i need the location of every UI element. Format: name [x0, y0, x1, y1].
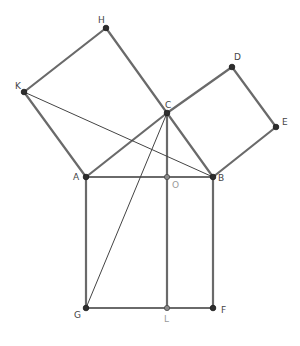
- segment-hc: [106, 28, 167, 113]
- point-h[interactable]: [103, 25, 109, 31]
- label-h: H: [98, 15, 105, 25]
- segment-kb: [24, 92, 213, 177]
- segment-ac: [86, 113, 167, 177]
- label-f: F: [221, 305, 226, 315]
- segment-cg: [86, 113, 167, 308]
- segment-cd: [167, 67, 232, 113]
- label-g: G: [74, 310, 81, 320]
- label-o: O: [172, 180, 179, 190]
- segment-ak: [24, 92, 86, 177]
- point-c[interactable]: [164, 110, 170, 116]
- point-l[interactable]: [164, 305, 169, 310]
- label-k: K: [15, 81, 22, 91]
- label-l: L: [164, 314, 169, 324]
- point-f[interactable]: [210, 305, 216, 311]
- geometry-canvas: ABCDEHKGFOL: [0, 0, 300, 346]
- points: [21, 25, 279, 311]
- segment-cb: [167, 113, 213, 177]
- thin-segments: [24, 92, 213, 308]
- label-d: D: [234, 52, 241, 62]
- label-c: C: [165, 100, 171, 110]
- point-o[interactable]: [164, 174, 169, 179]
- label-e: E: [282, 117, 288, 127]
- point-d[interactable]: [229, 64, 235, 70]
- label-b: B: [218, 173, 224, 183]
- point-labels: ABCDEHKGFOL: [15, 15, 288, 324]
- point-g[interactable]: [83, 305, 89, 311]
- point-k[interactable]: [21, 89, 27, 95]
- thick-segments: [24, 28, 276, 308]
- point-e[interactable]: [273, 124, 279, 130]
- point-a[interactable]: [83, 174, 89, 180]
- point-b[interactable]: [210, 174, 216, 180]
- segment-kh: [24, 28, 106, 92]
- segment-de: [232, 67, 276, 127]
- label-a: A: [73, 172, 80, 182]
- segment-eb: [213, 127, 276, 177]
